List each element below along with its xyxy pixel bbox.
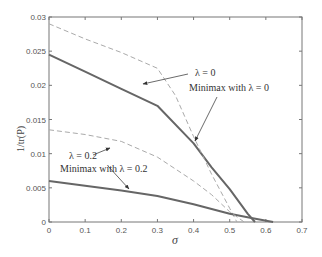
x-tick-label: 0.3 (152, 226, 164, 235)
x-tick-label: 0.5 (224, 226, 236, 235)
annotation-minimax-lambda-0.2: Minimax with λ = 0.2 (60, 163, 147, 174)
annotation-lambda-0: λ = 0 (195, 67, 216, 78)
chart: 00.10.20.30.40.50.60.7 00.0050.010.0150.… (0, 0, 322, 257)
y-tick-label: 0.03 (30, 13, 46, 22)
y-tick-label: 0.02 (30, 81, 46, 90)
y-axis-tick-labels: 00.0050.010.0150.020.0250.03 (26, 13, 47, 227)
x-tick-label: 0.2 (116, 226, 128, 235)
x-tick-label: 0.6 (260, 226, 272, 235)
annotation-minimax-lambda-0: Minimax with λ = 0 (189, 82, 269, 93)
y-tick-label: 0.025 (26, 47, 47, 56)
x-axis-label: σ (172, 233, 179, 247)
y-tick-label: 0.005 (26, 184, 47, 193)
x-tick-label: 0.4 (188, 226, 200, 235)
x-tick-label: 0.1 (80, 226, 92, 235)
x-tick-label: 0.7 (296, 226, 308, 235)
annotation-lambda-0.2: λ = 0.2 (69, 150, 97, 161)
y-axis-label: 1/tr(P) (15, 126, 27, 152)
plot-area (49, 17, 302, 222)
y-tick-label: 0.015 (26, 116, 47, 125)
y-tick-label: 0 (42, 218, 47, 227)
y-tick-label: 0.01 (30, 150, 46, 159)
x-tick-label: 0 (47, 226, 52, 235)
